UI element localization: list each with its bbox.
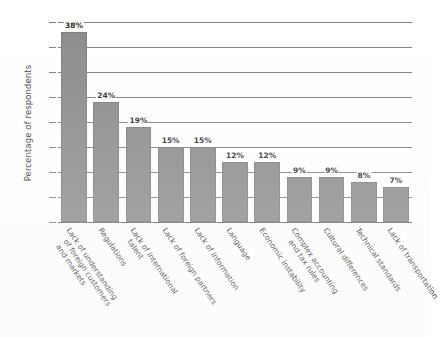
bar-slot: 7% xyxy=(380,22,412,222)
bar[interactable]: 15% xyxy=(158,147,184,222)
bar[interactable]: 12% xyxy=(254,162,280,222)
bar[interactable]: 8% xyxy=(351,182,377,222)
bar[interactable]: 24% xyxy=(93,102,119,222)
bar-value-label: 24% xyxy=(96,91,116,101)
y-axis-tick xyxy=(49,222,56,223)
bar-value-label: 9% xyxy=(324,166,339,176)
y-axis-tick xyxy=(49,197,56,198)
bar-value-label: 8% xyxy=(356,171,371,181)
bar[interactable]: 19% xyxy=(126,127,152,222)
y-axis-tick xyxy=(49,72,56,73)
bar-value-label: 38% xyxy=(64,21,84,31)
plot-area: 0510152025303540 38%24%19%15%15%12%12%9%… xyxy=(58,22,412,222)
bar-value-label: 19% xyxy=(128,116,148,126)
y-axis-tick xyxy=(49,172,56,173)
bar-value-label: 7% xyxy=(389,176,404,186)
bar-value-label: 12% xyxy=(257,151,277,161)
bar-slot: 15% xyxy=(187,22,219,222)
bar-value-label: 15% xyxy=(193,136,213,146)
bar[interactable]: 12% xyxy=(222,162,248,222)
bar[interactable]: 9% xyxy=(287,177,313,222)
bar-value-label: 9% xyxy=(292,166,307,176)
bar[interactable]: 38% xyxy=(61,32,87,222)
x-axis-label-line: Regulations xyxy=(96,226,128,268)
bar-slot: 15% xyxy=(155,22,187,222)
y-axis-title: Percentage of respondents xyxy=(23,43,33,203)
bar-slot: 9% xyxy=(283,22,315,222)
y-axis-tick xyxy=(49,147,56,148)
x-axis-label: Regulations xyxy=(96,226,128,268)
x-axis-label-line: Language xyxy=(225,226,253,262)
bar[interactable]: 15% xyxy=(190,147,216,222)
bar[interactable]: 7% xyxy=(383,187,409,222)
x-axis-label: Language xyxy=(225,226,253,262)
y-axis-tick xyxy=(49,22,56,23)
bar-slot: 38% xyxy=(58,22,90,222)
bar-slot: 19% xyxy=(122,22,154,222)
bar-value-label: 12% xyxy=(225,151,245,161)
bar-value-label: 15% xyxy=(161,136,181,146)
y-axis-tick xyxy=(49,47,56,48)
bar[interactable]: 9% xyxy=(319,177,345,222)
bar-slot: 12% xyxy=(251,22,283,222)
bar-slot: 24% xyxy=(90,22,122,222)
x-axis-labels: Lack of understandingof foreign customer… xyxy=(58,226,412,336)
bar-series: 38%24%19%15%15%12%12%9%9%8%7% xyxy=(58,22,412,222)
y-axis-tick xyxy=(49,97,56,98)
y-axis-tick xyxy=(49,122,56,123)
bar-slot: 12% xyxy=(219,22,251,222)
bar-slot: 9% xyxy=(316,22,348,222)
bar-slot: 8% xyxy=(348,22,380,222)
